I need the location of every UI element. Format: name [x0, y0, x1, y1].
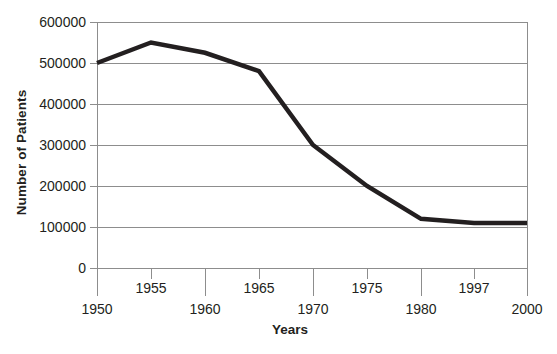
y-axis-ticks	[90, 22, 97, 268]
data-line-number-of-patients	[97, 43, 527, 223]
line-chart: Number of Patients 600000 500000 400000 …	[0, 0, 557, 354]
x-tick-label: 1965	[243, 281, 274, 295]
x-tick-label: 2000	[511, 302, 542, 316]
gridlines	[97, 22, 527, 227]
x-tick-label: 1975	[351, 281, 382, 295]
x-tick-label: 1960	[189, 302, 220, 316]
x-tick-label: 1970	[297, 302, 328, 316]
x-tick-label: 1997	[458, 281, 489, 295]
x-tick-label: 1980	[405, 302, 436, 316]
x-tick-label: 1950	[81, 302, 112, 316]
x-axis-title: Years	[0, 322, 557, 337]
x-tick-label: 1955	[135, 281, 166, 295]
